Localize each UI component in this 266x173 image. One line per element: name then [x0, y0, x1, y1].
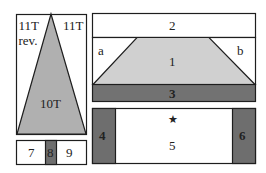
top-right-panel: 2 a 1 b 3: [93, 14, 256, 102]
label-5: 5: [169, 138, 176, 153]
bottom-right-panel: 4 6 ★ 5: [93, 109, 256, 164]
label-11t-right: 11T: [63, 18, 84, 33]
label-a: a: [98, 43, 104, 58]
label-4: 4: [99, 128, 106, 143]
left-panel: 11T rev. 11T 10T: [17, 14, 87, 135]
label-11t-rev-line1: 11T: [19, 18, 40, 33]
label-3: 3: [169, 86, 176, 101]
court-diagram: 11T rev. 11T 10T 7 8 9 2 a 1 b 3 4 6 ★ 5: [0, 0, 266, 173]
label-8: 8: [47, 145, 54, 160]
label-7: 7: [28, 145, 35, 160]
label-2: 2: [169, 18, 176, 33]
label-9: 9: [66, 145, 73, 160]
label-b: b: [237, 43, 244, 58]
label-11t-rev-line2: rev.: [19, 33, 38, 48]
label-1: 1: [169, 54, 176, 69]
label-6: 6: [239, 128, 246, 143]
star-icon: ★: [168, 113, 178, 125]
label-10t: 10T: [40, 96, 61, 111]
bottom-left-panel: 7 8 9: [17, 141, 87, 165]
